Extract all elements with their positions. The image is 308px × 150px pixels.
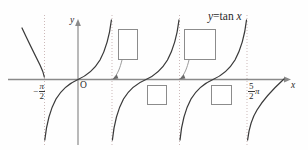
fraction-pi-over-2: π2: [39, 82, 46, 101]
tangent-function-figure: y=tan x y x O −π2 52π: [0, 0, 308, 150]
y-axis-label: y: [70, 16, 74, 26]
curve-equation-label: y=tan x: [208, 11, 242, 23]
minus-sign: −: [33, 87, 38, 96]
curve-equation-tan: =tan: [213, 10, 236, 22]
answer-box-4[interactable]: [211, 85, 232, 105]
callout-arrow-1-path: [115, 60, 123, 78]
fraction-5-over-2: 52: [248, 82, 255, 101]
origin-label: O: [80, 81, 87, 91]
graph-canvas: [0, 0, 308, 150]
curve-equation-x: x: [237, 10, 242, 22]
pi-symbol: π: [255, 87, 260, 96]
answer-box-2[interactable]: [147, 85, 167, 105]
answer-box-1[interactable]: [118, 29, 138, 60]
callout-arrow-2-path: [182, 60, 190, 78]
x-axis-label: x: [291, 81, 295, 91]
callout-arrow-2-head: [179, 75, 185, 80]
callout-arrow-1-head: [112, 75, 118, 80]
x-tick-label-neg-pi-over-2: −π2: [33, 82, 45, 101]
callout-arrows: [112, 60, 189, 79]
fraction-denominator: 2: [39, 92, 46, 101]
x-tick-label-5pi-over-2: 52π: [248, 82, 260, 101]
fraction-denominator: 2: [248, 92, 255, 101]
tangent-branch-left-partial: [22, 28, 44, 77]
answer-box-3[interactable]: [184, 29, 216, 60]
